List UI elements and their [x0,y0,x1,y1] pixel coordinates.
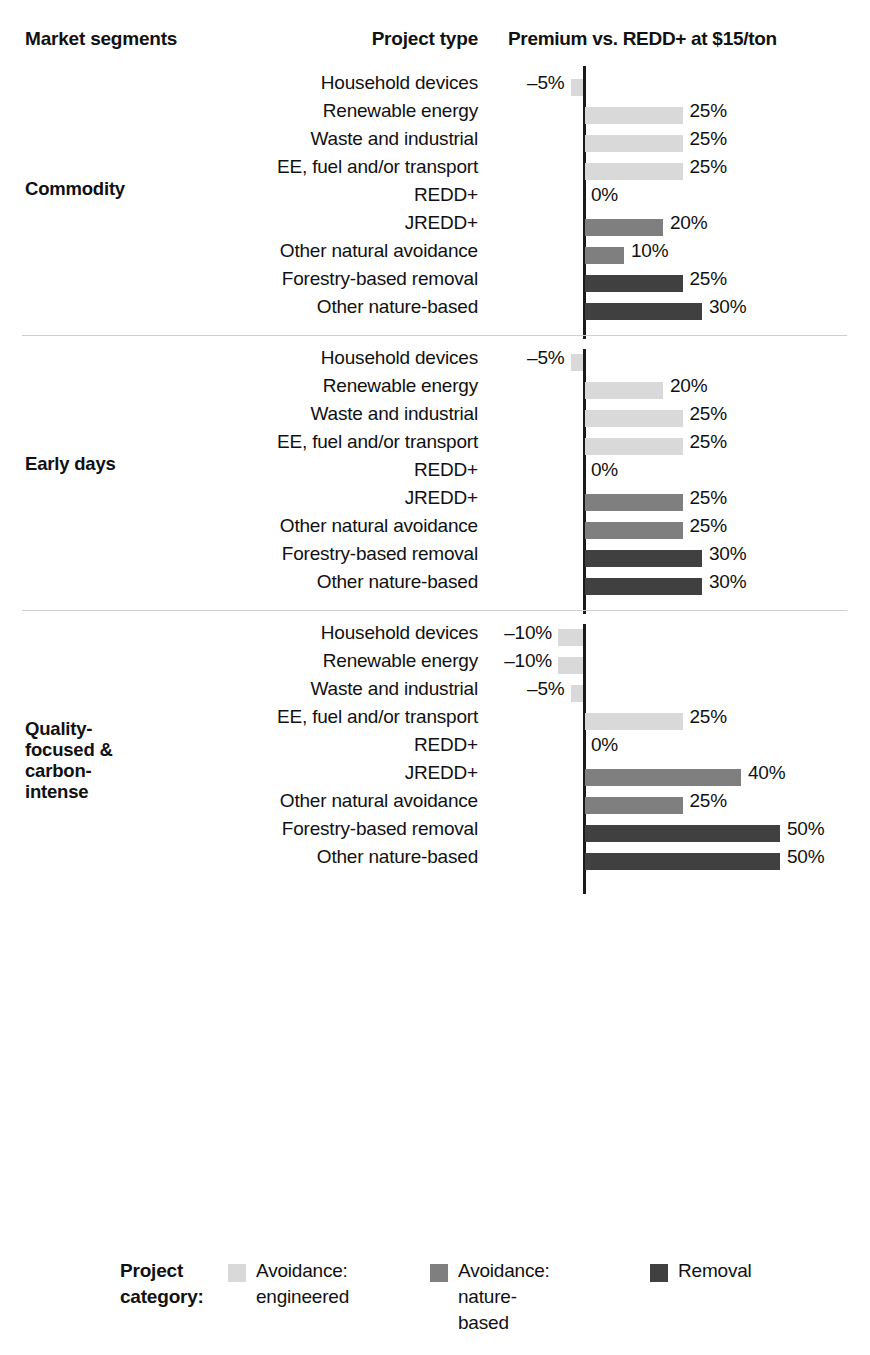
bar [585,797,683,814]
row-label-project-type: Waste and industrial [150,128,478,150]
row-label-project-type: Forestry-based removal [150,268,478,290]
chart-row: Forestry-based removal50% [0,818,870,846]
row-label-project-type: JREDD+ [150,212,478,234]
bar-value-label: 10% [631,240,668,262]
bar-value-label: 20% [670,375,707,397]
legend-label-avoidance-engineered: Avoidance: engineered [256,1258,349,1310]
bar-value-label: 30% [709,543,746,565]
row-label-project-type: EE, fuel and/or transport [150,156,478,178]
bar-value-label: 25% [690,403,727,425]
row-label-project-type: Other natural avoidance [150,515,478,537]
bar-value-label: –10% [502,622,552,644]
segment-divider [22,335,847,336]
row-label-project-type: EE, fuel and/or transport [150,431,478,453]
bar-value-label: 25% [690,268,727,290]
bar-value-label: 25% [690,128,727,150]
row-label-project-type: Other natural avoidance [150,790,478,812]
bar-value-label: 40% [748,762,785,784]
legend-label-removal: Removal [678,1258,752,1284]
chart-row: JREDD+40% [0,762,870,790]
row-label-project-type: Waste and industrial [150,678,478,700]
bar-value-zero: 0% [591,734,618,756]
row-label-project-type: Other nature-based [150,296,478,318]
row-label-project-type: REDD+ [150,459,478,481]
row-label-project-type: Household devices [150,72,478,94]
header-project-type: Project type [180,28,478,50]
chart-row: JREDD+25% [0,487,870,515]
bar [585,163,683,180]
bar [571,354,584,371]
bar [585,135,683,152]
chart-row: Other natural avoidance25% [0,515,870,543]
bar [571,685,584,702]
bar [585,410,683,427]
row-label-project-type: EE, fuel and/or transport [150,706,478,728]
header-market-segments: Market segments [25,28,177,50]
chart-row: EE, fuel and/or transport25% [0,706,870,734]
bar-value-label: 25% [690,515,727,537]
legend-label-avoidance-nature-based: Avoidance: nature-based [458,1258,550,1336]
bar-value-label: –5% [515,347,565,369]
row-label-project-type: Household devices [150,347,478,369]
chart-row: Renewable energy–10% [0,650,870,678]
legend-title: Project category: [120,1258,204,1310]
bar [585,247,624,264]
legend-swatch-avoidance-engineered [228,1264,246,1282]
row-label-project-type: Waste and industrial [150,403,478,425]
bar-value-zero: 0% [591,184,618,206]
bar [585,550,702,567]
bar [571,79,584,96]
chart-row: Waste and industrial–5% [0,678,870,706]
chart-row: EE, fuel and/or transport25% [0,431,870,459]
chart-row: Household devices–5% [0,72,870,100]
segment-divider [22,610,847,611]
chart-row: Household devices–5% [0,347,870,375]
row-label-project-type: Forestry-based removal [150,818,478,840]
chart-row: Waste and industrial25% [0,128,870,156]
chart-row: Other nature-based30% [0,571,870,599]
bar-value-label: 20% [670,212,707,234]
chart-legend: Project category: Avoidance: engineered … [0,1258,870,1328]
chart-row: Forestry-based removal25% [0,268,870,296]
bar-value-label: 25% [690,487,727,509]
row-label-project-type: JREDD+ [150,762,478,784]
bar-value-label: –10% [502,650,552,672]
segment-1: CommodityHousehold devices–5%Renewable e… [0,60,870,335]
bar [585,522,683,539]
bar [585,107,683,124]
row-label-project-type: REDD+ [150,734,478,756]
chart-row: Waste and industrial25% [0,403,870,431]
bar [585,578,702,595]
row-label-project-type: REDD+ [150,184,478,206]
bar [558,657,583,674]
segment-2: Early daysHousehold devices–5%Renewable … [0,335,870,610]
chart-row: Other natural avoidance25% [0,790,870,818]
chart-row: REDD+0% [0,734,870,762]
legend-swatch-removal [650,1264,668,1282]
bar-value-label: 25% [690,100,727,122]
bar-value-label: –5% [515,678,565,700]
row-label-project-type: Renewable energy [150,100,478,122]
row-label-project-type: Other natural avoidance [150,240,478,262]
chart-row: REDD+0% [0,184,870,212]
bar [585,438,683,455]
bar [585,494,683,511]
bar [585,769,741,786]
bar-value-label: 50% [787,846,824,868]
chart-row: Household devices–10% [0,622,870,650]
bar-value-zero: 0% [591,459,618,481]
bar-value-label: 25% [690,706,727,728]
bar-value-label: 25% [690,790,727,812]
segment-3: Quality- focused & carbon- intenseHouseh… [0,610,870,890]
bar-value-label: 30% [709,296,746,318]
chart-row: REDD+0% [0,459,870,487]
chart-plot-area: CommodityHousehold devices–5%Renewable e… [0,60,870,1235]
row-label-project-type: Other nature-based [150,846,478,868]
bar [585,853,780,870]
bar [585,275,683,292]
bar [585,219,663,236]
chart-row: Forestry-based removal30% [0,543,870,571]
chart-row: Renewable energy20% [0,375,870,403]
bar [558,629,583,646]
chart-row: JREDD+20% [0,212,870,240]
